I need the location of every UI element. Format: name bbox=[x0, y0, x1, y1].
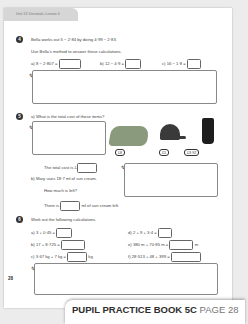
question-number: 4 bbox=[16, 36, 23, 43]
answer-box[interactable] bbox=[187, 59, 201, 69]
q4-part-b: b) 12 − 4·9 = bbox=[100, 59, 141, 69]
working-box[interactable] bbox=[32, 70, 217, 104]
question-number: 5 bbox=[16, 113, 23, 120]
price-tag: £8 bbox=[115, 149, 125, 156]
working-box[interactable] bbox=[34, 263, 218, 295]
q6-part-a: a) 3 + 0·45 = bbox=[31, 228, 72, 238]
q6-part-b: b) 17 + 8·725 = bbox=[31, 240, 85, 250]
q4-intro: Bella works out 5 − 2·84 by doing 4·99 −… bbox=[31, 37, 117, 42]
page-number: 28 bbox=[8, 276, 13, 281]
price-tag: £5 bbox=[159, 149, 169, 156]
answer-box[interactable] bbox=[171, 252, 201, 262]
question-number: 6 bbox=[16, 216, 23, 223]
working-box[interactable] bbox=[32, 121, 106, 155]
answer-box[interactable] bbox=[158, 228, 172, 238]
answer-box[interactable] bbox=[59, 59, 81, 69]
book-page: PAGE 28 bbox=[200, 304, 239, 315]
q5b-answer: There is ml of sun cream left. bbox=[44, 201, 119, 211]
answer-box[interactable] bbox=[67, 252, 87, 262]
q5b-question: How much is left? bbox=[44, 188, 77, 193]
unit-header: Unit 13: Decimals, Lesson 4 bbox=[4, 8, 78, 21]
q4-part-c: c) 16 − 1·8 = bbox=[162, 59, 201, 69]
book-title: PUPIL PRACTICE BOOK 5C bbox=[72, 304, 197, 315]
answer-box[interactable] bbox=[56, 228, 72, 238]
q6-part-c: c) 3·67 kg + 7 kg = kg bbox=[31, 252, 93, 262]
q4-part-a: a) 8 − 2·807 = bbox=[31, 59, 81, 69]
q5a-total: The total cost is £ bbox=[44, 163, 97, 173]
q4-instruction: Use Bella's method to answer these calcu… bbox=[31, 49, 122, 54]
towel-image bbox=[108, 126, 150, 146]
working-box[interactable] bbox=[124, 163, 218, 197]
cap-brim bbox=[176, 136, 186, 139]
unit-label: Unit 13: Decimals, Lesson 4 bbox=[16, 12, 60, 16]
worksheet-page: Unit 13: Decimals, Lesson 4 4 Bella work… bbox=[4, 8, 232, 308]
q6-instruction: Work out the following calculations. bbox=[31, 217, 96, 222]
q6-part-e: e) 380 m + 70·85 m = m bbox=[128, 240, 198, 250]
answer-box[interactable] bbox=[61, 240, 85, 250]
answer-box[interactable] bbox=[60, 201, 80, 211]
suncream-image bbox=[202, 118, 214, 144]
book-banner: PUPIL PRACTICE BOOK 5C PAGE 28 bbox=[65, 300, 245, 324]
q6-part-f: f) 28·513 + 48 + 399 = bbox=[128, 252, 201, 262]
price-tag: £3·92 bbox=[184, 149, 199, 156]
answer-box[interactable] bbox=[169, 240, 193, 250]
q6-part-d: d) 2 + 9 + 3·4 = bbox=[128, 228, 172, 238]
answer-box[interactable] bbox=[77, 163, 97, 173]
answer-box[interactable] bbox=[125, 59, 141, 69]
q5b-text: b) Mary uses 18·7 ml of sun cream. bbox=[31, 176, 97, 181]
q5a-text: a) What is the total cost of these items… bbox=[31, 114, 104, 119]
